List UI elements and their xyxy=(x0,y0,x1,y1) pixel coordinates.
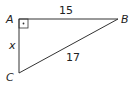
side-label-cb: 17 xyxy=(66,51,80,64)
vertex-label-a: A xyxy=(5,13,14,26)
triangle-abc xyxy=(19,19,118,73)
right-angle-marker xyxy=(19,19,28,28)
right-angle-dot-icon xyxy=(23,23,25,25)
vertex-label-c: C xyxy=(6,71,14,84)
side-label-ab: 15 xyxy=(59,4,73,17)
right-triangle-diagram: A B C 15 x 17 xyxy=(0,0,131,86)
side-label-ac: x xyxy=(8,39,16,52)
vertex-label-b: B xyxy=(121,13,129,26)
